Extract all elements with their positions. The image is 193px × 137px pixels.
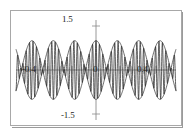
x-axis-min-label: -0.4 [22, 64, 35, 74]
x-axis-zero-label: 0 [93, 64, 97, 74]
plot-screenshot: 1.5 -1.5 -0.4 0 0.4 [0, 0, 193, 137]
y-axis-max-label: 1.5 [62, 14, 73, 24]
frame-shadow-right [182, 12, 183, 128]
y-axis-min-label: -1.5 [61, 110, 74, 120]
frame-shadow-bottom [12, 127, 183, 128]
x-axis-max-label: 0.4 [137, 64, 148, 74]
